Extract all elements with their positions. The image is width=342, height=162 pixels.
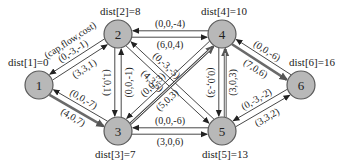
edge-5-to-2 xyxy=(131,42,214,119)
edge-label-1-2: (3,3,1) xyxy=(70,56,99,81)
edge-label-4-5: (0,0,-3) xyxy=(205,68,217,98)
dist-label-5: dist[5]=13 xyxy=(202,148,248,160)
node-5: 5 xyxy=(208,117,236,145)
dist-label-4: dist[4]=10 xyxy=(201,5,247,17)
edge-label-3-5: (3,0,6) xyxy=(157,136,184,148)
edge-label-5-6: (3,3,2) xyxy=(252,106,281,130)
dist-label-1: dist[1]=0 xyxy=(8,56,49,68)
node-label: 4 xyxy=(219,27,226,42)
node-label: 1 xyxy=(36,78,43,93)
dist-label-3: dist[3]=7 xyxy=(95,148,136,160)
edge-label-5-3: (0,0,-6) xyxy=(155,115,185,127)
node-6: 6 xyxy=(287,71,315,99)
node-label: 5 xyxy=(219,124,226,139)
edge-4-to-3 xyxy=(127,41,210,118)
node-1: 1 xyxy=(25,71,53,99)
dist-label-6: dist[6]=16 xyxy=(289,56,335,68)
node-label: 3 xyxy=(115,124,122,139)
node-2: 2 xyxy=(104,20,132,48)
edge-label-5-4: (3,0,3) xyxy=(227,69,239,96)
dist-label-2: dist[2]=8 xyxy=(100,5,141,17)
node-label: 6 xyxy=(298,78,305,93)
node-label: 2 xyxy=(115,27,122,42)
node-3: 3 xyxy=(104,117,132,145)
edge-label-3-2: (0,0,-1) xyxy=(123,68,135,98)
edge-label-4-2: (0,0,-4) xyxy=(155,18,185,30)
node-4: 4 xyxy=(208,20,236,48)
edge-label-2-3: (1,0,1) xyxy=(101,69,113,96)
edge-label-2-4: (6,0,4) xyxy=(157,39,184,51)
flow-network-diagram: (3,3,1)(0,-3,-1)(4,0,7)(0,0,-7)(6,0,4)(0… xyxy=(0,0,342,162)
